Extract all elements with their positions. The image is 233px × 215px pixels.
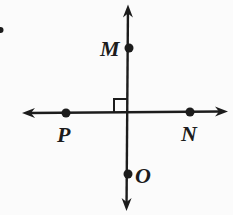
point-label-N: N [180, 121, 198, 146]
perpendicular-lines-diagram: MPNO [0, 0, 233, 215]
figure-canvas: MPNO [0, 0, 233, 215]
point-dot-M [125, 44, 134, 53]
point-label-P: P [56, 122, 71, 147]
point-dot-P [62, 109, 71, 118]
point-dot-O [124, 170, 133, 179]
point-dot-N [186, 108, 195, 117]
stray-period-mark [0, 27, 4, 33]
point-label-M: M [99, 36, 121, 61]
right-angle-marker [114, 99, 127, 112]
point-label-O: O [135, 163, 151, 188]
